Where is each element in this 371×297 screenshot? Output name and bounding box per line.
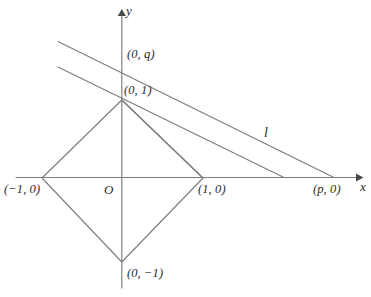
line-l <box>58 67 284 178</box>
point-label-0-1: (0, 1) <box>124 84 152 97</box>
line-l-label: l <box>264 126 268 140</box>
point-label-neg1-0: (−1, 0) <box>4 183 40 196</box>
rotated-square-shape <box>42 100 203 262</box>
y-axis-label: y <box>126 4 132 17</box>
square-diagonal-segment <box>122 100 203 178</box>
coordinate-diagram: y x O (0, q) (0, 1) (−1, 0) (1, 0) (0, −… <box>0 0 371 297</box>
line-through-q-and-p <box>58 42 334 178</box>
diagram-canvas <box>0 0 371 297</box>
x-axis-label: x <box>360 180 366 193</box>
point-label-0-q: (0, q) <box>127 48 155 61</box>
point-label-0-neg1: (0, −1) <box>127 267 163 280</box>
y-axis-arrow-icon <box>118 9 126 16</box>
origin-label: O <box>104 183 114 196</box>
point-label-1-0: (1, 0) <box>198 183 226 196</box>
point-label-p-0: (p, 0) <box>313 183 341 196</box>
